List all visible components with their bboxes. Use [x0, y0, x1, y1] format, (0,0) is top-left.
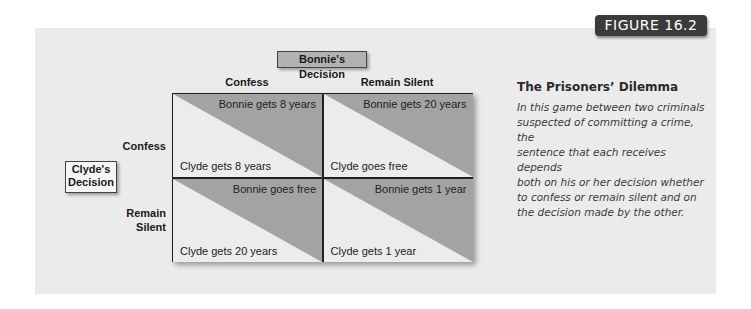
figure-number-tab: FIGURE 16.2	[595, 15, 707, 36]
row-header-line: Confess	[86, 139, 166, 153]
column-player-label: Bonnie's Decision	[277, 51, 367, 68]
bonnie-payoff: Bonnie goes free	[233, 183, 316, 195]
payoff-cell-silent-silent: Bonnie gets 1 year Clyde gets 1 year	[324, 179, 473, 262]
caption-line: to confess or remain silent and on	[517, 190, 707, 205]
caption-title: The Prisoners’ Dilemma	[517, 80, 678, 94]
row-header-line: Remain	[86, 206, 166, 220]
row-player-label-line: Decision	[66, 176, 116, 189]
bonnie-payoff: Bonnie gets 8 years	[219, 98, 316, 110]
clyde-payoff: Clyde gets 1 year	[331, 245, 417, 257]
caption-line: suspected of committing a crime, the	[517, 115, 707, 145]
payoff-cell-silent-confess: Bonnie goes free Clyde gets 20 years	[173, 179, 322, 262]
caption-line: both on his or her decision whether	[517, 175, 707, 190]
row-player-label-line: Clyde's	[66, 163, 116, 176]
payoff-matrix: Bonnie gets 8 years Clyde gets 8 years B…	[172, 93, 473, 262]
bonnie-payoff: Bonnie gets 20 years	[363, 98, 466, 110]
bonnie-payoff: Bonnie gets 1 year	[375, 183, 467, 195]
row-header-remain-silent: Remain Silent	[86, 206, 166, 234]
caption-body: In this game between two criminals suspe…	[517, 100, 707, 220]
clyde-payoff: Clyde goes free	[331, 160, 408, 172]
matrix-horizontal-divider	[173, 177, 472, 179]
caption-line: In this game between two criminals	[517, 100, 707, 115]
clyde-payoff: Clyde gets 20 years	[180, 245, 277, 257]
caption-line: the decision made by the other.	[517, 205, 707, 220]
row-header-confess: Confess	[86, 139, 166, 153]
row-header-line: Silent	[86, 220, 166, 234]
caption-line: sentence that each receives depends	[517, 145, 707, 175]
row-player-label: Clyde's Decision	[65, 161, 117, 193]
payoff-cell-confess-confess: Bonnie gets 8 years Clyde gets 8 years	[173, 94, 322, 177]
payoff-cell-confess-silent: Bonnie gets 20 years Clyde goes free	[324, 94, 473, 177]
clyde-payoff: Clyde gets 8 years	[180, 160, 271, 172]
